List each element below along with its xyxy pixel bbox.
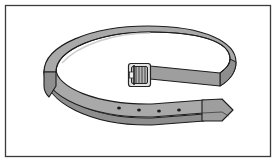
buckle-prong-base	[130, 72, 134, 78]
belt-hole	[177, 108, 181, 111]
belt-illustration	[0, 0, 277, 165]
belt-hole	[117, 106, 121, 109]
belt-buckle	[129, 64, 151, 87]
illustration-canvas: Belt Technical line drawing of a coiled …	[0, 0, 277, 165]
belt-hole	[137, 108, 141, 111]
belt-hole	[157, 109, 161, 112]
